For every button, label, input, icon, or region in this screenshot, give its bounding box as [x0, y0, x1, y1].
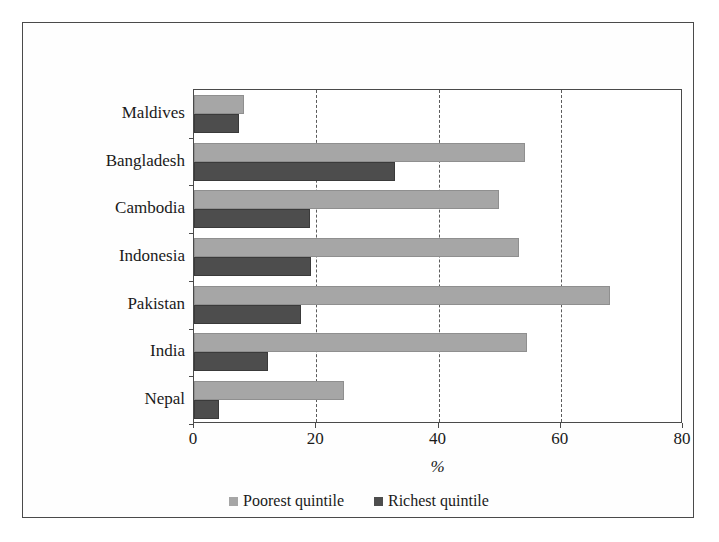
x-axis-title: % [193, 457, 682, 477]
x-tick-20 [315, 423, 316, 428]
bar-cambodia-poorest [194, 190, 499, 209]
bar-indonesia-poorest [194, 238, 519, 257]
bar-group-cambodia [194, 185, 681, 233]
bar-bangladesh-poorest [194, 143, 525, 162]
x-tick-label-40: 40 [429, 430, 446, 447]
bar-group-bangladesh [194, 138, 681, 186]
y-label-pakistan: Pakistan [25, 295, 185, 312]
x-tick-60 [560, 423, 561, 428]
legend-swatch-richest-icon [374, 497, 383, 506]
legend-item-richest[interactable]: Richest quintile [374, 493, 489, 509]
y-label-maldives: Maldives [25, 104, 185, 121]
y-label-india: India [25, 342, 185, 359]
bar-indonesia-richest [194, 257, 311, 276]
bar-group-indonesia [194, 233, 681, 281]
x-tick-label-20: 20 [307, 430, 324, 447]
figure-frame: MaldivesBangladeshCambodiaIndonesiaPakis… [22, 22, 694, 518]
x-tick-label-60: 60 [551, 430, 568, 447]
legend-swatch-poorest-icon [229, 497, 238, 506]
legend-label-poorest: Poorest quintile [243, 493, 344, 509]
bar-group-india [194, 329, 681, 377]
legend-item-poorest[interactable]: Poorest quintile [229, 493, 344, 509]
x-tick-0 [193, 423, 194, 428]
bar-india-richest [194, 352, 268, 371]
y-label-indonesia: Indonesia [25, 247, 185, 264]
bar-maldives-poorest [194, 95, 244, 114]
x-tick-80 [682, 423, 683, 428]
plot-area [193, 89, 682, 423]
bar-india-poorest [194, 333, 527, 352]
bar-pakistan-poorest [194, 286, 610, 305]
x-tick-label-0: 0 [189, 430, 198, 447]
x-tick-label-80: 80 [674, 430, 691, 447]
legend-label-richest: Richest quintile [388, 493, 489, 509]
bar-group-maldives [194, 90, 681, 138]
bar-nepal-poorest [194, 381, 344, 400]
y-label-bangladesh: Bangladesh [25, 152, 185, 169]
bar-group-pakistan [194, 281, 681, 329]
x-tick-40 [438, 423, 439, 428]
bar-cambodia-richest [194, 209, 310, 228]
bar-group-nepal [194, 376, 681, 424]
x-axis: 020406080 [193, 423, 682, 457]
y-label-cambodia: Cambodia [25, 199, 185, 216]
bar-nepal-richest [194, 400, 219, 419]
bar-pakistan-richest [194, 305, 301, 324]
bar-bangladesh-richest [194, 162, 395, 181]
y-axis-labels: MaldivesBangladeshCambodiaIndonesiaPakis… [23, 89, 185, 423]
y-label-nepal: Nepal [25, 390, 185, 407]
bar-maldives-richest [194, 114, 239, 133]
legend: Poorest quintileRichest quintile [23, 493, 695, 509]
